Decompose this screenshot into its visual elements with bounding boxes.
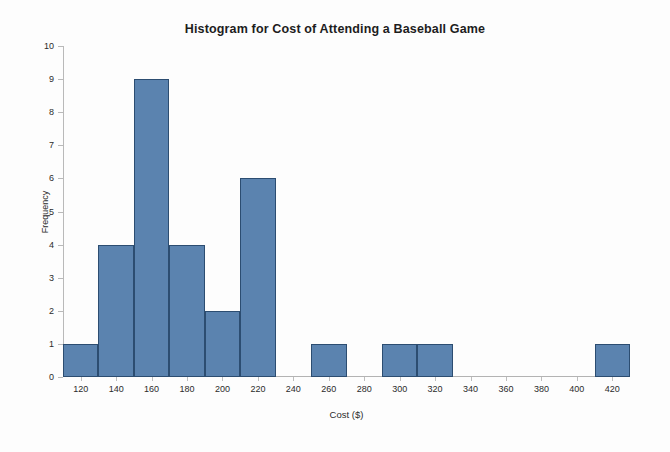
- y-axis-tick-label: 0: [49, 372, 54, 382]
- x-axis-tick-label: 160: [144, 384, 159, 394]
- y-axis-tick: [58, 112, 63, 113]
- x-axis-tick: [435, 377, 436, 381]
- x-axis-tick: [400, 377, 401, 381]
- x-axis-tick: [506, 377, 507, 381]
- y-axis-tick-label: 8: [49, 107, 54, 117]
- y-axis-tick-label: 10: [44, 41, 54, 51]
- histogram-bar: [417, 344, 452, 377]
- y-axis-tick-label: 5: [49, 207, 54, 217]
- y-axis-tick-label: 3: [49, 273, 54, 283]
- y-axis-tick-label: 6: [49, 173, 54, 183]
- x-axis-tick: [258, 377, 259, 381]
- histogram-bar: [240, 178, 275, 377]
- x-axis-tick-label: 420: [605, 384, 620, 394]
- x-axis-tick-label: 180: [180, 384, 195, 394]
- y-axis-tick: [58, 178, 63, 179]
- histogram-bar: [205, 311, 240, 377]
- y-axis-tick-label: 2: [49, 306, 54, 316]
- y-axis-tick-label: 7: [49, 140, 54, 150]
- x-axis-tick-label: 300: [392, 384, 407, 394]
- x-axis-tick-label: 360: [498, 384, 513, 394]
- chart-title: Histogram for Cost of Attending a Baseba…: [0, 22, 670, 36]
- y-axis-tick: [58, 245, 63, 246]
- x-axis-tick-label: 280: [357, 384, 372, 394]
- y-axis-tick: [58, 311, 63, 312]
- x-axis-tick-label: 240: [286, 384, 301, 394]
- x-axis-tick-label: 120: [73, 384, 88, 394]
- x-axis-tick: [577, 377, 578, 381]
- x-axis-tick: [293, 377, 294, 381]
- y-axis-line: [63, 46, 64, 377]
- histogram-bar: [98, 245, 133, 377]
- x-axis-tick-label: 220: [250, 384, 265, 394]
- histogram-bar: [63, 344, 98, 377]
- y-axis-tick: [58, 212, 63, 213]
- x-axis-tick: [222, 377, 223, 381]
- x-axis-tick: [152, 377, 153, 381]
- x-axis-tick: [364, 377, 365, 381]
- x-axis-tick: [81, 377, 82, 381]
- y-axis-tick-label: 1: [49, 339, 54, 349]
- y-axis-tick-label: 9: [49, 74, 54, 84]
- histogram-bar: [382, 344, 417, 377]
- y-axis-tick: [58, 46, 63, 47]
- x-axis-tick: [612, 377, 613, 381]
- x-axis-tick: [116, 377, 117, 381]
- x-axis-tick-label: 260: [321, 384, 336, 394]
- y-axis-tick: [58, 377, 63, 378]
- histogram-bar: [311, 344, 346, 377]
- x-axis-tick: [329, 377, 330, 381]
- x-axis-tick: [541, 377, 542, 381]
- histogram-bar: [169, 245, 204, 377]
- x-axis-label: Cost ($): [63, 409, 630, 420]
- histogram-figure: Histogram for Cost of Attending a Baseba…: [0, 0, 670, 452]
- x-axis-tick-label: 340: [463, 384, 478, 394]
- x-axis-tick-label: 400: [569, 384, 584, 394]
- x-axis-tick-label: 200: [215, 384, 230, 394]
- x-axis-tick: [187, 377, 188, 381]
- x-axis-tick: [471, 377, 472, 381]
- plot-area: 012345678910 120140160180200220240260280…: [63, 46, 630, 377]
- x-axis-tick-label: 140: [109, 384, 124, 394]
- x-axis-tick-label: 380: [534, 384, 549, 394]
- histogram-bar: [134, 79, 169, 377]
- y-axis-tick: [58, 79, 63, 80]
- y-axis-tick: [58, 278, 63, 279]
- y-axis-tick: [58, 145, 63, 146]
- x-axis-tick-label: 320: [428, 384, 443, 394]
- histogram-bar: [595, 344, 630, 377]
- y-axis-tick-label: 4: [49, 240, 54, 250]
